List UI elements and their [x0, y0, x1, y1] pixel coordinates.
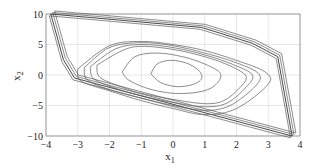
spiral-trajectory [78, 41, 271, 114]
x-tick-label: −3 [72, 139, 83, 150]
y-tick-label: 5 [38, 39, 43, 50]
x-tick-label: 3 [266, 139, 271, 150]
y-tick-label: 0 [38, 70, 43, 81]
x-tick-label: 4 [298, 139, 303, 150]
y-tick-label: −5 [32, 100, 43, 111]
y-tick-label: 10 [33, 9, 43, 20]
x-tick-label: −2 [104, 139, 115, 150]
trajectory-layer [49, 11, 296, 138]
spiral-trajectory [151, 60, 202, 86]
spiral-trajectory [122, 53, 221, 93]
phase-portrait-chart: −4−3−2−101234 −10−50510 x1 x2 [0, 0, 317, 168]
spiral-trajectory [90, 44, 252, 106]
x-tick-label: 2 [234, 139, 239, 150]
boundary-strand [53, 12, 294, 134]
y-axis-label: x2 [10, 71, 25, 81]
x-tick-label: −1 [136, 139, 147, 150]
y-tick-label: −10 [27, 131, 43, 142]
x-axis-ticks: −4−3−2−101234 [41, 139, 303, 150]
grid-lines [46, 14, 300, 136]
x-axis-label: x1 [165, 150, 175, 165]
x-tick-label: 0 [171, 139, 176, 150]
y-axis-ticks: −10−50510 [27, 9, 43, 142]
x-tick-label: 1 [202, 139, 207, 150]
